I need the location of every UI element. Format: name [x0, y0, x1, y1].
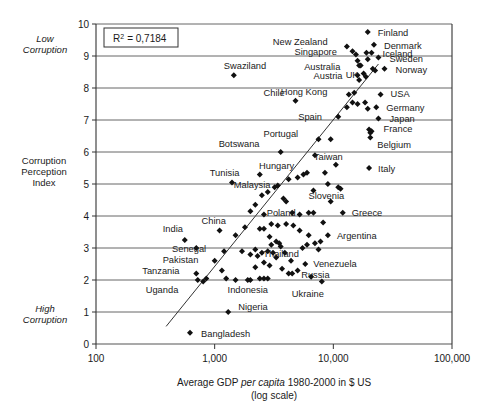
- point-label-germany: Germany: [386, 103, 425, 113]
- data-point: [279, 266, 285, 272]
- data-point: [252, 247, 258, 253]
- data-point: [223, 275, 229, 281]
- data-point: [247, 208, 253, 214]
- data-point: [267, 263, 273, 269]
- data-point: [365, 106, 371, 112]
- data-point: [297, 227, 303, 233]
- point-label-malaysia: Malaysia: [234, 180, 272, 190]
- data-point: [355, 58, 361, 64]
- point-label-hungary: Hungary: [259, 161, 294, 171]
- point-label-france: France: [384, 124, 413, 134]
- x-axis-title-percapita: per capita: [241, 377, 285, 388]
- point-label-china: China: [202, 216, 227, 226]
- point-label-japan: Japan: [389, 114, 414, 124]
- data-point: [283, 221, 289, 227]
- point-label-greece: Greece: [352, 208, 383, 218]
- point-label-uganda: Uganda: [146, 285, 179, 295]
- data-point-germany: [373, 104, 379, 110]
- point-label-venezuela: Venezuela: [313, 259, 357, 269]
- point-label-usa: USA: [391, 89, 411, 99]
- data-point: [304, 242, 310, 248]
- point-label-ukraine: Ukraine: [292, 289, 324, 299]
- point-label-singapore: Singapore: [294, 47, 336, 57]
- data-point-india: [182, 237, 188, 243]
- data-point: [362, 99, 368, 105]
- point-label-senegal: Senegal: [172, 244, 206, 254]
- data-point-new-zealand: [344, 43, 350, 49]
- data-point: [312, 240, 318, 246]
- data-point-hong-kong: [346, 91, 352, 97]
- xtick-label-1: 1,000: [202, 353, 227, 364]
- data-point: [239, 248, 245, 254]
- point-label-spain: Spain: [298, 112, 322, 122]
- data-point: [297, 211, 303, 217]
- data-point: [363, 50, 369, 56]
- data-point-russia: [289, 271, 295, 277]
- data-point-tanzania: [193, 271, 199, 277]
- y-axis-high-corruption-note: High Corruption: [6, 303, 84, 325]
- data-point-tunisia: [257, 171, 263, 177]
- data-point: [328, 136, 334, 142]
- point-label-botswana: Botswana: [219, 139, 261, 149]
- data-point: [355, 101, 361, 107]
- x-axis-title-part1: Average GDP: [177, 377, 241, 388]
- data-point: [322, 170, 328, 176]
- point-label-finland: Finland: [378, 28, 409, 38]
- data-point: [261, 259, 267, 265]
- ytick-label-10: 10: [78, 19, 90, 30]
- scatter-plot: 0123456789101001,00010,000100,000R2= 0,7…: [0, 0, 488, 419]
- data-point-bangladesh: [187, 330, 193, 336]
- data-point: [316, 247, 322, 253]
- point-label-nigeria: Nigeria: [238, 302, 268, 312]
- point-label-india: India: [163, 224, 184, 234]
- data-point: [242, 224, 248, 230]
- data-point: [219, 267, 225, 273]
- data-point-italy: [366, 165, 372, 171]
- data-point-nigeria: [225, 309, 231, 315]
- data-point-botswana: [278, 149, 284, 155]
- point-label-tanzania: Tanzania: [142, 266, 180, 276]
- data-point: [365, 56, 371, 62]
- data-point-belgium: [367, 135, 373, 141]
- data-point-poland: [306, 210, 312, 216]
- data-point-sweden: [375, 55, 381, 61]
- data-point: [265, 189, 271, 195]
- data-point-venezuela: [302, 261, 308, 267]
- data-point-norway: [382, 66, 388, 72]
- data-point-thailand: [268, 242, 274, 248]
- point-label-australia: Australia: [304, 62, 341, 72]
- data-point: [295, 267, 301, 273]
- point-label-russia: Russia: [301, 270, 330, 280]
- data-point-indonesia: [233, 277, 239, 283]
- ytick-label-2: 2: [83, 275, 89, 286]
- ytick-label-1: 1: [83, 307, 89, 318]
- data-point: [268, 221, 274, 227]
- x-axis-title: Average GDP per capita 1980-2000 in $ US…: [94, 376, 454, 402]
- point-label-swaziland: Swaziland: [224, 61, 266, 71]
- x-axis-title-part3: 1980-2000 in $ US: [285, 377, 371, 388]
- point-label-thailand: Thailand: [263, 249, 299, 259]
- data-point-argentina: [325, 232, 331, 238]
- data-point: [252, 264, 258, 270]
- point-label-hong-kong: Hong Kong: [281, 87, 328, 97]
- point-label-chile: Chile: [264, 88, 285, 98]
- data-point-china: [217, 227, 223, 233]
- data-point-japan: [375, 115, 381, 121]
- data-point-chile: [293, 98, 299, 104]
- data-point: [306, 232, 312, 238]
- data-point: [255, 253, 261, 259]
- data-point: [290, 223, 296, 229]
- y-axis-title: Corruption Perception Index: [2, 155, 86, 188]
- point-label-portugal: Portugal: [264, 129, 299, 139]
- point-label-bangladesh: Bangladesh: [201, 329, 250, 339]
- data-point: [261, 226, 267, 232]
- point-label-tunisia: Tunisia: [210, 168, 240, 178]
- ytick-label-3: 3: [83, 243, 89, 254]
- data-point-spain: [335, 114, 341, 120]
- xtick-label-2: 10,000: [318, 353, 349, 364]
- point-label-italy: Italy: [378, 164, 395, 174]
- data-point-iceland: [369, 50, 375, 56]
- data-point: [295, 175, 301, 181]
- data-point-greece: [340, 210, 346, 216]
- data-point-uganda: [195, 277, 201, 283]
